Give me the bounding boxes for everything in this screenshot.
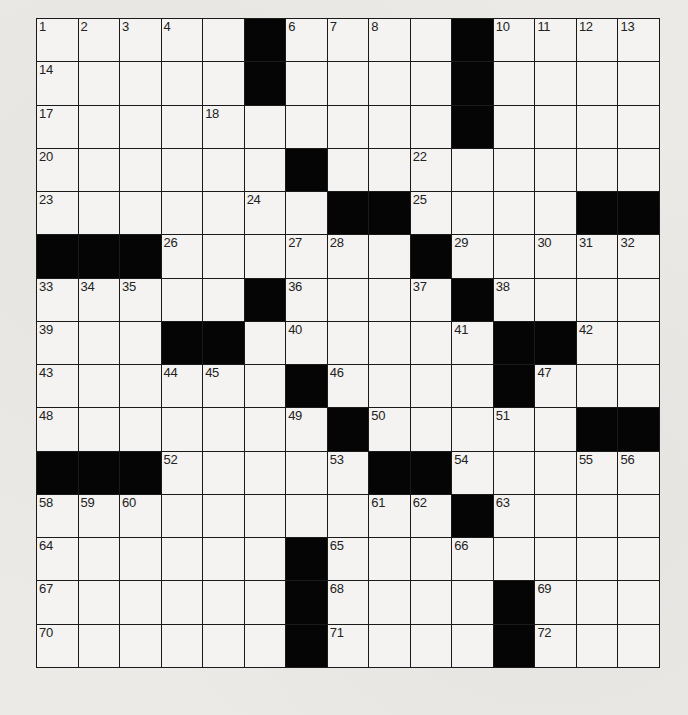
grid-cell[interactable]: 30 — [535, 235, 576, 277]
grid-cell[interactable] — [162, 192, 203, 234]
grid-cell[interactable] — [494, 106, 535, 148]
grid-cell[interactable] — [618, 149, 659, 191]
grid-cell[interactable] — [79, 149, 120, 191]
grid-cell[interactable] — [245, 538, 286, 580]
grid-cell[interactable] — [162, 408, 203, 450]
grid-cell[interactable]: 23 — [37, 192, 78, 234]
grid-cell[interactable] — [577, 495, 618, 537]
grid-cell[interactable] — [162, 106, 203, 148]
grid-cell[interactable]: 24 — [245, 192, 286, 234]
grid-cell[interactable] — [120, 365, 161, 407]
grid-cell[interactable] — [120, 192, 161, 234]
grid-cell[interactable] — [120, 322, 161, 364]
grid-cell[interactable] — [328, 322, 369, 364]
grid-cell[interactable] — [120, 625, 161, 667]
grid-cell[interactable]: 12 — [577, 19, 618, 61]
grid-cell[interactable] — [79, 625, 120, 667]
grid-cell[interactable] — [328, 149, 369, 191]
grid-cell[interactable] — [369, 149, 410, 191]
grid-cell[interactable] — [286, 62, 327, 104]
grid-cell[interactable] — [494, 62, 535, 104]
grid-cell[interactable] — [452, 192, 493, 234]
grid-cell[interactable] — [411, 408, 452, 450]
grid-cell[interactable] — [411, 365, 452, 407]
grid-cell[interactable] — [162, 62, 203, 104]
grid-cell[interactable] — [286, 452, 327, 494]
grid-cell[interactable]: 39 — [37, 322, 78, 364]
grid-cell[interactable] — [245, 625, 286, 667]
grid-cell[interactable]: 67 — [37, 581, 78, 623]
grid-cell[interactable] — [535, 452, 576, 494]
grid-cell[interactable] — [618, 538, 659, 580]
grid-cell[interactable] — [494, 235, 535, 277]
grid-cell[interactable] — [79, 581, 120, 623]
grid-cell[interactable]: 47 — [535, 365, 576, 407]
grid-cell[interactable] — [245, 106, 286, 148]
grid-cell[interactable] — [494, 192, 535, 234]
grid-cell[interactable] — [618, 62, 659, 104]
grid-cell[interactable] — [203, 149, 244, 191]
grid-cell[interactable] — [452, 408, 493, 450]
grid-cell[interactable] — [245, 408, 286, 450]
grid-cell[interactable] — [411, 62, 452, 104]
grid-cell[interactable]: 48 — [37, 408, 78, 450]
grid-cell[interactable] — [203, 235, 244, 277]
grid-cell[interactable] — [162, 149, 203, 191]
grid-cell[interactable]: 32 — [618, 235, 659, 277]
grid-cell[interactable] — [79, 408, 120, 450]
grid-cell[interactable]: 38 — [494, 279, 535, 321]
grid-cell[interactable] — [618, 106, 659, 148]
grid-cell[interactable] — [535, 192, 576, 234]
grid-cell[interactable]: 65 — [328, 538, 369, 580]
grid-cell[interactable] — [577, 625, 618, 667]
grid-cell[interactable]: 2 — [79, 19, 120, 61]
grid-cell[interactable] — [411, 538, 452, 580]
grid-cell[interactable]: 8 — [369, 19, 410, 61]
grid-cell[interactable]: 6 — [286, 19, 327, 61]
grid-cell[interactable] — [369, 625, 410, 667]
grid-cell[interactable] — [494, 538, 535, 580]
grid-cell[interactable] — [369, 538, 410, 580]
grid-cell[interactable]: 50 — [369, 408, 410, 450]
grid-cell[interactable] — [577, 106, 618, 148]
grid-cell[interactable] — [79, 62, 120, 104]
grid-cell[interactable] — [618, 279, 659, 321]
grid-cell[interactable] — [203, 62, 244, 104]
grid-cell[interactable] — [494, 149, 535, 191]
grid-cell[interactable] — [328, 495, 369, 537]
grid-cell[interactable] — [577, 279, 618, 321]
grid-cell[interactable] — [203, 192, 244, 234]
grid-cell[interactable]: 72 — [535, 625, 576, 667]
grid-cell[interactable] — [203, 19, 244, 61]
grid-cell[interactable]: 33 — [37, 279, 78, 321]
grid-cell[interactable] — [452, 625, 493, 667]
grid-cell[interactable] — [245, 452, 286, 494]
grid-cell[interactable] — [120, 106, 161, 148]
grid-cell[interactable]: 17 — [37, 106, 78, 148]
grid-cell[interactable]: 3 — [120, 19, 161, 61]
grid-cell[interactable] — [618, 581, 659, 623]
grid-cell[interactable] — [618, 365, 659, 407]
grid-cell[interactable] — [79, 106, 120, 148]
grid-cell[interactable]: 18 — [203, 106, 244, 148]
grid-cell[interactable]: 14 — [37, 62, 78, 104]
grid-cell[interactable]: 27 — [286, 235, 327, 277]
grid-cell[interactable] — [245, 581, 286, 623]
grid-cell[interactable]: 13 — [618, 19, 659, 61]
grid-cell[interactable] — [203, 408, 244, 450]
grid-cell[interactable] — [618, 495, 659, 537]
grid-cell[interactable]: 1 — [37, 19, 78, 61]
grid-cell[interactable]: 31 — [577, 235, 618, 277]
grid-cell[interactable]: 44 — [162, 365, 203, 407]
grid-cell[interactable]: 60 — [120, 495, 161, 537]
grid-cell[interactable] — [369, 62, 410, 104]
grid-cell[interactable] — [369, 365, 410, 407]
grid-cell[interactable] — [120, 581, 161, 623]
grid-cell[interactable]: 4 — [162, 19, 203, 61]
grid-cell[interactable] — [535, 538, 576, 580]
grid-cell[interactable]: 58 — [37, 495, 78, 537]
grid-cell[interactable]: 46 — [328, 365, 369, 407]
grid-cell[interactable] — [369, 581, 410, 623]
grid-cell[interactable] — [79, 322, 120, 364]
grid-cell[interactable] — [120, 149, 161, 191]
